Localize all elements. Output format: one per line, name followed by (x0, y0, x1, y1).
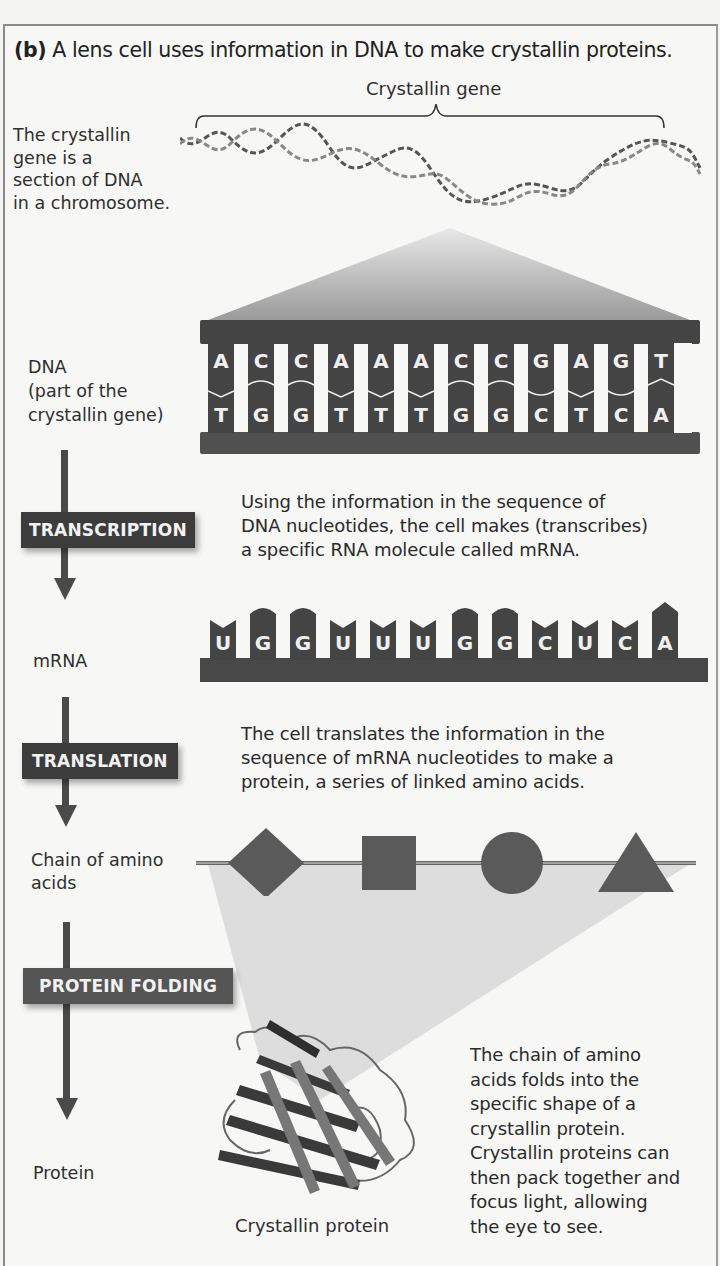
dna-helix-icon (180, 118, 720, 238)
down-arrow-icon (55, 805, 77, 829)
dna-base: C (448, 349, 474, 373)
protein-label: Protein (33, 1162, 94, 1185)
mrna-base: U (410, 631, 436, 655)
crystallin-protein-icon (210, 1010, 450, 1210)
dna-base: A (328, 349, 354, 373)
down-arrow-icon (56, 1098, 78, 1122)
figure-title: (b) A lens cell uses information in DNA … (14, 38, 672, 62)
mrna-base: G (492, 631, 518, 655)
amino-chain-label: Chain of amino acids (31, 849, 163, 895)
panel-letter: (b) (14, 38, 46, 62)
mrna-base: A (652, 631, 678, 655)
dna-backbone-bottom (200, 432, 700, 454)
gene-bracket-label: Crystallin gene (366, 77, 501, 100)
dna-zoom-wedge (200, 228, 700, 322)
mrna-label: mRNA (33, 650, 87, 673)
dna-base: A (648, 403, 674, 427)
dna-base: T (568, 403, 594, 427)
title-text: A lens cell uses information in DNA to m… (46, 38, 672, 62)
dna-base: C (248, 349, 274, 373)
mrna-base: U (370, 631, 396, 655)
mrna-base: G (452, 631, 478, 655)
dna-base: G (528, 349, 554, 373)
chromosome-note: The crystallin gene is a section of DNA … (13, 124, 170, 214)
dna-base: T (648, 349, 674, 373)
mrna-bases: U G G U U U G G C U C A (210, 600, 710, 660)
dna-base: C (288, 349, 314, 373)
translation-description: The cell translates the information in t… (241, 722, 614, 794)
step-transcription: TRANSCRIPTION (21, 512, 195, 548)
dna-base: G (288, 403, 314, 427)
dna-base: G (488, 403, 514, 427)
dna-base: T (208, 403, 234, 427)
mrna-base: U (210, 631, 236, 655)
dna-base: G (608, 349, 634, 373)
amino-acid-diamond (228, 828, 304, 896)
step-translation: TRANSLATION (22, 743, 178, 779)
mrna-base: C (532, 631, 558, 655)
dna-base: C (608, 403, 634, 427)
protein-caption: Crystallin protein (235, 1214, 389, 1237)
dna-backbone-top (200, 320, 700, 344)
dna-base: T (368, 403, 394, 427)
step-protein-folding: PROTEIN FOLDING (23, 968, 233, 1004)
mrna-base: C (612, 631, 638, 655)
mrna-base: U (330, 631, 356, 655)
dna-base: A (568, 349, 594, 373)
dna-base: G (448, 403, 474, 427)
mrna-base: U (572, 631, 598, 655)
dna-base: T (408, 403, 434, 427)
mrna-base: G (250, 631, 276, 655)
transcription-description: Using the information in the sequence of… (241, 490, 648, 562)
flow-arrow-shaft (63, 922, 70, 1100)
amino-acid-circle (481, 832, 543, 894)
dna-base: C (528, 403, 554, 427)
dna-base-pairs: A C C A A A C C G A G T T G G T T T G G … (208, 343, 692, 433)
amino-acid-square (362, 836, 416, 890)
dna-label: DNA (part of the crystallin gene) (28, 355, 164, 427)
dna-base: A (208, 349, 234, 373)
dna-base: G (248, 403, 274, 427)
mrna-backbone (200, 658, 708, 682)
dna-base: C (488, 349, 514, 373)
amino-acid-chain (196, 826, 706, 896)
dna-base: A (368, 349, 394, 373)
down-arrow-icon (54, 578, 76, 602)
dna-base: A (408, 349, 434, 373)
dna-base: T (328, 403, 354, 427)
folding-description: The chain of amino acids folds into the … (470, 1043, 680, 1239)
mrna-base: G (290, 631, 316, 655)
